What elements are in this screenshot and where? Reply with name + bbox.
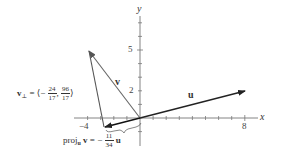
v-perp-x-fraction: 2417 (48, 85, 57, 102)
proj-subscript: u (78, 140, 81, 146)
vector-proj (105, 118, 140, 127)
x-axis-label: x (260, 111, 264, 122)
label-v: v (115, 76, 120, 87)
comma: , (57, 88, 59, 98)
v-perp-eq: = ⟨− (29, 88, 45, 98)
close-bracket: ⟩ (70, 88, 74, 98)
proj-text: proj (63, 135, 78, 145)
y-tick-2: 2 (129, 85, 134, 95)
y-axis-label: y (137, 3, 141, 14)
label-u: u (188, 89, 194, 100)
diagram-canvas (0, 0, 282, 161)
proj-eq: = − (90, 135, 102, 145)
y-tick-5: 5 (128, 44, 133, 54)
vector-v-perp (89, 51, 104, 127)
x-tick-neg4: −4 (79, 121, 89, 131)
perp-subscript: ⊥ (22, 93, 28, 99)
proj-u: u (116, 135, 121, 145)
x-tick-8: 8 (242, 121, 247, 131)
v-perp-formula: v⊥ = ⟨− 2417, 9617⟩ (17, 85, 74, 102)
proj-fraction: 1134 (105, 132, 114, 149)
proj-v: v (83, 135, 88, 145)
proj-formula: proju v = − 1134 u (63, 132, 121, 149)
v-perp-y-fraction: 9617 (61, 85, 70, 102)
